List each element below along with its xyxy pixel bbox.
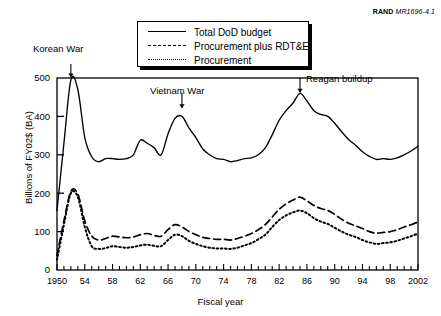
y-axis-tick-label: 0 xyxy=(45,264,50,275)
x-axis-tick-label: 54 xyxy=(80,276,90,286)
x-axis-tick-label: 62 xyxy=(135,276,145,286)
x-axis-tick-label: 94 xyxy=(357,276,367,286)
annotation-pointer xyxy=(68,64,73,78)
figure-root: RAND MR1696-4.1 Total DoD budget Procure… xyxy=(0,0,441,316)
x-axis-tick-label: 74 xyxy=(219,276,229,286)
y-axis-tick-label: 500 xyxy=(34,72,50,83)
annotation-pointer xyxy=(179,93,184,109)
x-axis-tick-label: 90 xyxy=(330,276,340,286)
series-line-total-dod-budget xyxy=(57,76,418,210)
annotation-arrow-icon xyxy=(297,89,302,93)
x-axis-tick-label: 58 xyxy=(108,276,118,286)
x-axis-tick-label: 82 xyxy=(274,276,284,286)
annotation-pointer xyxy=(297,77,302,93)
chart-plot-area: 0100200300400500195054586266707478828690… xyxy=(0,0,441,316)
annotation-arrow-icon xyxy=(179,104,184,108)
x-axis-tick-label: 78 xyxy=(246,276,256,286)
series-line-procurement xyxy=(57,191,418,260)
x-axis-tick-label: 86 xyxy=(302,276,312,286)
y-axis-tick-label: 400 xyxy=(34,111,50,122)
y-axis-tick-label: 100 xyxy=(34,226,50,237)
x-axis-tick-label: 66 xyxy=(163,276,173,286)
y-axis-tick-label: 200 xyxy=(34,188,50,199)
x-axis-tick-label: 2002 xyxy=(408,276,428,286)
x-axis-tick-label: 1950 xyxy=(47,276,67,286)
x-axis-tick-label: 70 xyxy=(191,276,201,286)
y-axis-tick-label: 300 xyxy=(34,149,50,160)
plot-frame xyxy=(57,78,418,270)
x-axis-tick-label: 98 xyxy=(385,276,395,286)
